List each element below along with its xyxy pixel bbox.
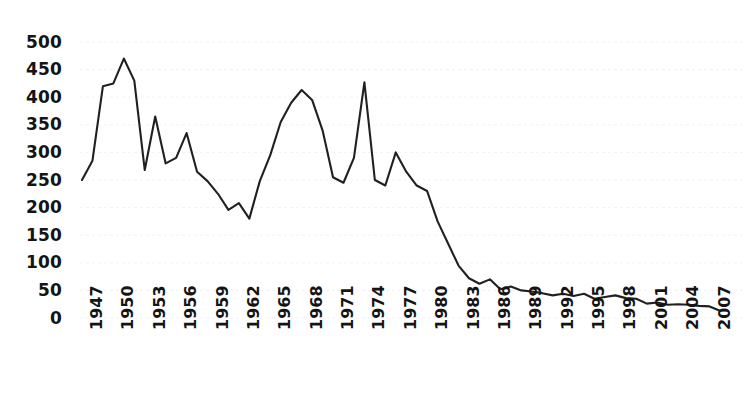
x-tick-label-1962: 1962 (246, 285, 262, 330)
x-tick-label-2001: 2001 (654, 285, 670, 330)
line-chart: 050100150200250300350400450500 194719501… (0, 0, 756, 401)
plot-area (0, 0, 756, 401)
y-tick-label-350: 350 (6, 116, 62, 133)
x-tick-label-1983: 1983 (466, 285, 482, 330)
x-tick-label-1992: 1992 (560, 285, 576, 330)
y-tick-label-150: 150 (6, 227, 62, 244)
x-tick-label-1971: 1971 (340, 285, 356, 330)
x-tick-label-1953: 1953 (152, 285, 168, 330)
x-tick-label-1977: 1977 (403, 285, 419, 330)
x-tick-label-1965: 1965 (277, 285, 293, 330)
x-tick-label-1956: 1956 (183, 285, 199, 330)
x-tick-label-1950: 1950 (120, 285, 136, 330)
y-tick-label-400: 400 (6, 89, 62, 106)
x-tick-label-2004: 2004 (685, 285, 701, 330)
x-tick-label-1980: 1980 (434, 285, 450, 330)
x-tick-label-1947: 1947 (89, 285, 105, 330)
x-tick-label-1986: 1986 (497, 285, 513, 330)
x-tick-label-1959: 1959 (215, 285, 231, 330)
y-tick-label-200: 200 (6, 199, 62, 216)
y-tick-label-500: 500 (6, 34, 62, 51)
y-tick-label-450: 450 (6, 61, 62, 78)
y-tick-label-250: 250 (6, 172, 62, 189)
x-tick-label-1989: 1989 (528, 285, 544, 330)
x-tick-label-1974: 1974 (371, 285, 387, 330)
data-series-line (82, 59, 720, 311)
x-tick-label-1995: 1995 (591, 285, 607, 330)
y-tick-label-300: 300 (6, 144, 62, 161)
x-tick-label-1998: 1998 (622, 285, 638, 330)
x-tick-label-2007: 2007 (717, 285, 733, 330)
y-tick-label-0: 0 (6, 310, 62, 327)
x-tick-label-1968: 1968 (309, 285, 325, 330)
y-tick-label-100: 100 (6, 254, 62, 271)
y-tick-label-50: 50 (6, 282, 62, 299)
